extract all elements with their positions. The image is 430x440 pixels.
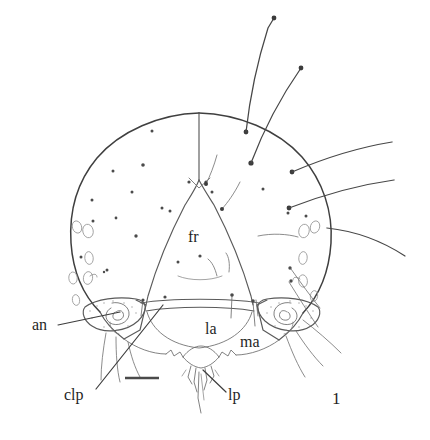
head-capsule-outline: [71, 113, 332, 340]
short-setae: [204, 155, 240, 276]
figure-plate: an fr la ma clp lp 1: [0, 0, 430, 440]
dorsal-setae: [244, 16, 304, 166]
stemmata-right: [293, 220, 321, 302]
frons-sclerite: [146, 178, 253, 305]
genal-hairs: [101, 269, 341, 382]
label-lp: lp: [228, 386, 240, 404]
label-la: la: [205, 320, 217, 337]
label-fr: fr: [188, 228, 199, 245]
label-an: an: [32, 316, 47, 333]
label-clp: clp: [64, 386, 84, 404]
stemmata-left: [68, 220, 97, 306]
setal-sockets: [80, 130, 308, 303]
mouthparts: [124, 339, 279, 413]
larval-head-illustration: an fr la ma clp lp 1: [0, 0, 430, 440]
label-ma: ma: [240, 333, 260, 350]
figure-number: 1: [332, 389, 341, 408]
